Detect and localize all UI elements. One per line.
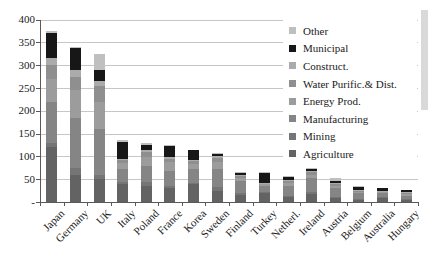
- bar-segment-energy-prod-: [377, 192, 388, 193]
- x-tick-mark: [64, 202, 65, 206]
- bar-segment-agriculture: [70, 175, 81, 202]
- legend-row: Mining: [283, 128, 417, 146]
- bar-segment-mining: [188, 183, 199, 184]
- bar-segment-municipal: [141, 145, 152, 150]
- y-tick-label: 300: [0, 59, 35, 72]
- y-tick-label: -: [0, 196, 35, 209]
- x-tick-mark: [418, 202, 419, 206]
- x-tick-mark: [182, 202, 183, 206]
- bar-segment-manufacturing: [235, 181, 246, 192]
- legend-swatch-icon: [289, 62, 296, 69]
- bar-segment-mining: [212, 187, 223, 191]
- bar-segment-water-purific-dist-: [235, 176, 246, 178]
- bar-segment-energy-prod-: [259, 184, 270, 186]
- bar-segment-energy-prod-: [94, 102, 105, 129]
- x-tick-mark: [158, 202, 159, 206]
- y-tick-label: 150: [0, 127, 35, 140]
- bar-segment-energy-prod-: [46, 79, 57, 102]
- legend-swatch-icon: [289, 45, 296, 52]
- bar-segment-agriculture: [46, 147, 57, 202]
- x-tick-mark: [371, 202, 372, 206]
- bar-segment-municipal: [188, 150, 199, 160]
- bar-segment-construct-: [212, 156, 223, 158]
- y-tick-mark: [36, 134, 40, 135]
- bar-segment-manufacturing: [94, 129, 105, 175]
- bar-segment-manufacturing: [353, 193, 364, 198]
- y-tick-label: 50: [0, 173, 35, 186]
- bar-segment-municipal: [70, 48, 81, 70]
- bar-segment-water-purific-dist-: [377, 191, 388, 192]
- y-tick-label: 350: [0, 36, 35, 49]
- bar-segment-manufacturing: [283, 186, 294, 195]
- bar-segment-energy-prod-: [117, 163, 128, 168]
- bar-segment-agriculture: [401, 200, 412, 202]
- x-tick-mark: [394, 202, 395, 206]
- y-tick-mark: [36, 42, 40, 43]
- legend-row: Municipal: [283, 40, 417, 58]
- bar-segment-water-purific-dist-: [330, 184, 341, 186]
- y-tick-label: 200: [0, 104, 35, 117]
- bar-segment-other: [330, 178, 341, 182]
- bar-segment-water-purific-dist-: [283, 181, 294, 183]
- legend-label: Municipal: [303, 42, 348, 54]
- bar-segment-mining: [377, 197, 388, 198]
- bar-segment-agriculture: [353, 199, 364, 202]
- bar-segment-energy-prod-: [212, 162, 223, 169]
- bar-segment-construct-: [330, 183, 341, 184]
- bar-segment-municipal: [401, 190, 412, 192]
- bar-segment-water-purific-dist-: [353, 191, 364, 192]
- bar-segment-water-purific-dist-: [46, 65, 57, 79]
- bar-segment-construct-: [164, 157, 175, 158]
- bar-segment-municipal: [164, 146, 175, 157]
- bar-segment-energy-prod-: [188, 164, 199, 169]
- legend-row: Manufacturing: [283, 110, 417, 128]
- x-tick-mark: [347, 202, 348, 206]
- bar-segment-energy-prod-: [283, 183, 294, 187]
- bar-segment-construct-: [235, 175, 246, 176]
- legend-label: Energy Prod.: [303, 95, 361, 107]
- legend-row: Other: [283, 22, 417, 40]
- legend-swatch-icon: [289, 150, 296, 157]
- legend-swatch-icon: [289, 27, 296, 34]
- y-tick-mark: [36, 20, 40, 21]
- bar-segment-municipal: [377, 188, 388, 190]
- bar-segment-agriculture: [259, 193, 270, 202]
- bar-segment-mining: [141, 182, 152, 186]
- bar-segment-municipal: [46, 33, 57, 58]
- x-category-label: France: [155, 207, 185, 237]
- bar-segment-energy-prod-: [401, 194, 412, 196]
- y-tick-mark: [36, 65, 40, 66]
- y-tick-label: 250: [0, 82, 35, 95]
- legend-row: Construct.: [283, 57, 417, 75]
- bar-segment-agriculture: [330, 197, 341, 202]
- x-tick-mark: [87, 202, 88, 206]
- bar-segment-energy-prod-: [70, 90, 81, 117]
- bar-segment-water-purific-dist-: [259, 183, 270, 184]
- legend-label: Water Purific.& Dist.: [303, 78, 397, 90]
- bar-segment-construct-: [306, 171, 317, 172]
- bar-segment-municipal: [283, 176, 294, 180]
- bar-segment-energy-prod-: [330, 186, 341, 189]
- bar-segment-energy-prod-: [235, 178, 246, 182]
- y-tick-label: 100: [0, 150, 35, 163]
- bar-segment-mining: [94, 175, 105, 180]
- bar-segment-manufacturing: [259, 186, 270, 191]
- legend-row: Energy Prod.: [283, 92, 417, 110]
- bar-segment-water-purific-dist-: [164, 159, 175, 163]
- legend-label: Other: [303, 25, 328, 37]
- x-tick-mark: [276, 202, 277, 206]
- bar-segment-municipal: [235, 173, 246, 175]
- chart-legend: OtherMunicipalConstruct.Water Purific.& …: [283, 20, 417, 166]
- bar-segment-manufacturing: [164, 171, 175, 187]
- bar-segment-mining: [235, 193, 246, 195]
- bar-segment-mining: [259, 192, 270, 193]
- bar-segment-agriculture: [94, 179, 105, 202]
- bar-segment-agriculture: [235, 195, 246, 202]
- bar-segment-construct-: [46, 58, 57, 65]
- y-tick-label: 400: [0, 13, 35, 26]
- bar-segment-mining: [70, 168, 81, 175]
- bar-segment-construct-: [188, 160, 199, 161]
- bar-segment-construct-: [70, 70, 81, 77]
- bar-segment-mining: [117, 182, 128, 183]
- bar-segment-water-purific-dist-: [117, 160, 128, 164]
